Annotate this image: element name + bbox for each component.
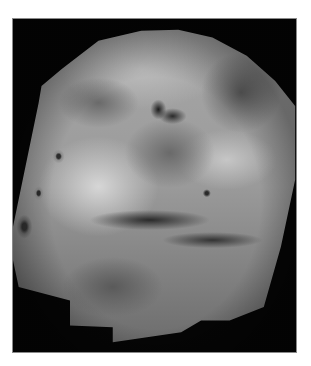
image-frame — [12, 18, 297, 353]
mars-mosaic-image — [13, 19, 297, 353]
